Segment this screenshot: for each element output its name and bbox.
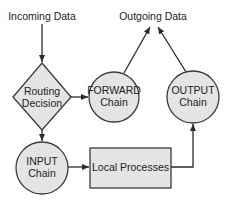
- edge-local-to-output: [171, 124, 193, 167]
- output-line1: OUTPUT: [171, 84, 215, 96]
- outgoing-data-label: Outgoing Data: [119, 10, 187, 22]
- edge-forward-to-outgoing: [124, 27, 150, 73]
- forward-chain-node: FORWARD Chain: [87, 72, 141, 122]
- packet-flow-diagram: Incoming Data Outgoing Data Routing Deci…: [0, 0, 231, 205]
- edge-output-to-outgoing: [158, 27, 186, 72]
- forward-line1: FORWARD: [87, 84, 141, 96]
- incoming-data-label: Incoming Data: [8, 10, 76, 22]
- output-chain-node: OUTPUT Chain: [167, 71, 219, 123]
- forward-line2: Chain: [100, 96, 128, 108]
- input-chain-node: INPUT Chain: [16, 142, 68, 194]
- input-line1: INPUT: [26, 155, 58, 167]
- output-line2: Chain: [179, 96, 207, 108]
- routing-decision-node: Routing Decision: [13, 63, 71, 130]
- routing-line1: Routing: [24, 85, 60, 97]
- local-processes-node: Local Processes: [90, 148, 171, 188]
- local-processes-label: Local Processes: [92, 161, 169, 173]
- routing-line2: Decision: [22, 97, 62, 109]
- input-line2: Chain: [28, 167, 56, 179]
